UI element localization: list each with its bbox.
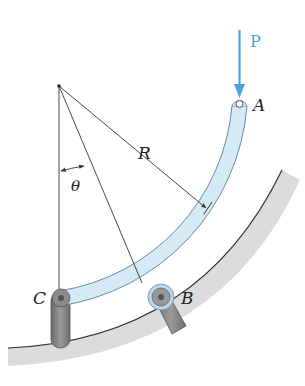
label-b: B	[180, 288, 194, 308]
pin-a-icon	[236, 101, 243, 108]
diagram-canvas: P A B C R θ	[0, 0, 305, 386]
roller-b-icon	[148, 284, 174, 310]
pin-c-icon	[52, 289, 70, 307]
theta-arc	[61, 166, 84, 171]
label-c: C	[33, 288, 46, 308]
geometry-lines	[57, 84, 212, 289]
load-arrow-p	[234, 30, 245, 98]
label-r: R	[137, 143, 151, 163]
label-a: A	[251, 95, 265, 115]
label-p: P	[250, 32, 261, 51]
radius-line	[59, 86, 206, 208]
diagram-svg: P A B C R θ	[0, 0, 305, 386]
label-theta: θ	[71, 177, 80, 195]
